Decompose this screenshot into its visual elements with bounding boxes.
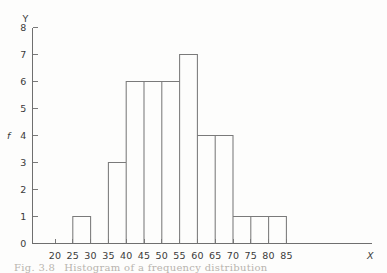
- y-tick-label: 8: [13, 23, 27, 33]
- x-tick-label: 85: [276, 251, 296, 261]
- y-axis-series-label: f: [7, 131, 11, 141]
- x-axis-name-label: X: [367, 251, 374, 261]
- y-tick-label: 6: [13, 77, 27, 87]
- figure-container: Y f X 012345678 202530354045505560657075…: [0, 0, 387, 273]
- histogram-outline: [73, 55, 287, 244]
- y-tick-label: 7: [13, 50, 27, 60]
- histogram-bars: [73, 55, 287, 244]
- y-tick-label: 2: [13, 185, 27, 195]
- y-tick-label: 0: [13, 239, 27, 249]
- figure-caption-number: Fig. 3.8: [14, 262, 55, 273]
- histogram-svg: [0, 0, 387, 273]
- figure-caption-text: Histogram of a frequency distribution: [64, 262, 267, 273]
- y-tick-label: 3: [13, 158, 27, 168]
- tick-marks: [33, 28, 287, 244]
- figure-caption: Fig. 3.8Histogram of a frequency distrib…: [14, 262, 374, 273]
- histogram-plot: Y f X 012345678 202530354045505560657075…: [0, 0, 387, 273]
- y-tick-label: 1: [13, 212, 27, 222]
- y-tick-label: 5: [13, 104, 27, 114]
- y-tick-label: 4: [13, 131, 27, 141]
